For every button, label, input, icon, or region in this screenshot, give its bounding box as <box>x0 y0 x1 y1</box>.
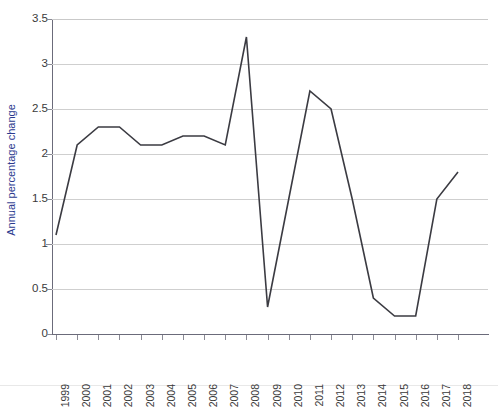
x-axis-tick-label: 2009 <box>272 384 283 407</box>
y-axis-tickmark <box>46 109 52 110</box>
x-axis-tick-label: 2002 <box>123 384 134 407</box>
y-axis-tickmark <box>46 154 52 155</box>
x-axis-tick-label: 2001 <box>102 384 113 407</box>
x-axis-tick-label: 2008 <box>250 384 261 407</box>
x-axis-tick-label: 2012 <box>335 384 346 407</box>
y-axis-tick-label: 0.5 <box>18 283 48 295</box>
x-axis-tick-label: 2013 <box>356 384 367 407</box>
y-axis-tickmark <box>46 289 52 290</box>
x-axis-tick-label: 2018 <box>462 384 473 407</box>
x-axis-tick-label: 2005 <box>187 384 198 407</box>
y-axis-tickmark <box>46 244 52 245</box>
y-axis-tickmark <box>46 64 52 65</box>
y-axis-tick-label: 0 <box>18 328 48 340</box>
x-axis-tick-label: 2003 <box>145 384 156 407</box>
x-axis-tick-label: 2000 <box>81 384 92 407</box>
y-axis-tick-label: 3.5 <box>18 13 48 25</box>
x-axis-tick-label: 2006 <box>208 384 219 407</box>
y-axis-tick-labels: 00.511.522.533.5 <box>14 0 48 386</box>
x-axis-tick-label: 2007 <box>229 384 240 407</box>
y-axis-tickmark <box>46 334 52 335</box>
y-axis-tick-label: 1 <box>18 238 48 250</box>
x-axis-tick-label: 2014 <box>377 384 388 407</box>
series-line <box>52 19 488 334</box>
y-axis-tickmark <box>46 199 52 200</box>
plot-area <box>52 19 488 334</box>
y-axis-tick-label: 2 <box>18 148 48 160</box>
y-axis-tick-label: 3 <box>18 58 48 70</box>
x-axis-tick-labels: 1999200020012002200320042005200620072008… <box>0 340 498 386</box>
x-axis-tick-label: 2017 <box>441 384 452 407</box>
y-axis-tickmark <box>46 19 52 20</box>
x-axis-line <box>52 334 489 335</box>
y-axis-tick-label: 1.5 <box>18 193 48 205</box>
y-axis-tick-label: 2.5 <box>18 103 48 115</box>
x-axis-tick-label: 2016 <box>420 384 431 407</box>
x-axis-tick-label: 1999 <box>60 384 71 407</box>
x-axis-tick-label: 2010 <box>293 384 304 407</box>
x-axis-tick-label: 2015 <box>399 384 410 407</box>
x-axis-tick-label: 2004 <box>166 384 177 407</box>
series-polyline <box>56 37 458 316</box>
x-axis-tick-label: 2011 <box>314 384 325 407</box>
